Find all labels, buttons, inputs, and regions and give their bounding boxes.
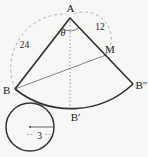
arc-point-b-prime-label: B′ <box>71 111 81 123</box>
apex-label: A <box>67 2 75 14</box>
point-m-label: M <box>105 43 115 55</box>
vertex-b-double-prime-label: B″ <box>136 79 148 91</box>
length-am-label: 12 <box>95 22 105 32</box>
vertex-b-label: B <box>3 84 10 96</box>
circle-radius-label: 3 <box>37 131 42 141</box>
length-ab-label: 24 <box>20 40 30 50</box>
cone-development-diagram: A B B″ B′ M θ 24 12 3 <box>0 0 148 157</box>
angle-theta-label: θ <box>61 27 66 38</box>
geometry-figure: A B B″ B′ M θ 24 12 3 <box>0 0 148 157</box>
